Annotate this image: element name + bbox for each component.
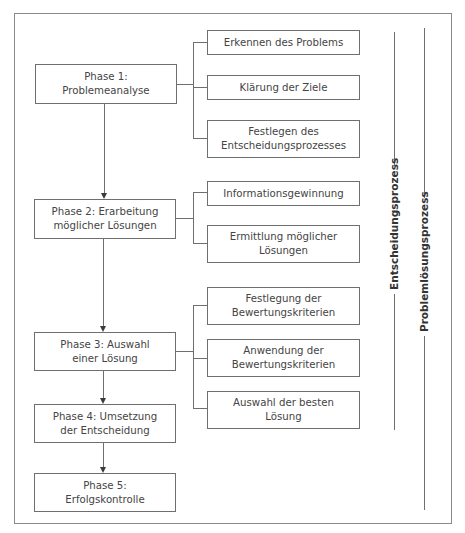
decision-process-line-bottom [394,294,395,430]
substep-box: Auswahl der bestenLösung [207,391,360,429]
phase-3-box: Phase 3: Auswahleiner Lösung [34,332,176,371]
substep-label: Ermittlung möglicher [230,230,337,244]
phase-3-line1: Phase 3: Auswahl [60,338,149,352]
bracket-phase-3-connector [176,351,193,352]
phase-4-line1: Phase 4: Umsetzung [53,410,158,424]
phase-2-line2: möglicher Lösungen [52,219,159,233]
substep-box: Festlegung derBewertungskriterien [207,287,360,325]
phase-5-box: Phase 5:Erfolgskontrolle [34,473,176,512]
problem-solving-process-line-bottom [424,336,425,510]
arrow-down-icon [100,398,106,404]
substep-label: Entscheidungsprozesses [221,139,346,153]
phase-2-line1: Phase 2: Erarbeitung [52,205,159,219]
arrow-1-2-line [104,104,105,193]
arrow-4-5-line [103,443,104,467]
substep-label: Lösungen [230,244,337,258]
bracket-phase-1-tick-3 [193,138,207,139]
arrow-3-4-line [103,371,104,398]
arrow-down-icon [100,467,106,473]
bracket-phase-2-connector [176,218,193,219]
substep-box: Klärung der Ziele [207,75,360,100]
problem-solving-process-line-top [424,28,425,198]
substep-label: Bewertungskriterien [232,306,336,320]
substep-label: Festlegung der [232,292,336,306]
phase-3-line2: einer Lösung [60,352,149,366]
phase-1-box: Phase 1:Problemeanalyse [35,64,177,104]
substep-label: Erkennen des Problems [224,36,344,50]
bracket-phase-3-tick-2 [193,358,207,359]
bracket-phase-2-tick-2 [193,243,207,244]
arrow-down-icon [101,193,107,199]
phase-4-line2: der Entscheidung [53,424,158,438]
bracket-phase-3-vertical [193,305,194,409]
bracket-phase-1-vertical [193,42,194,139]
substep-label: Bewertungskriterien [232,358,336,372]
substep-label: Festlegen des [221,125,346,139]
phase-1-line2: Problemeanalyse [62,84,149,98]
bracket-phase-1-connector [177,84,193,85]
bracket-phase-2-tick-1 [193,192,207,193]
substep-box: Erkennen des Problems [207,30,360,55]
substep-box: Informationsgewinnung [207,181,360,206]
decision-process-line-top [394,32,395,166]
arrow-2-3-line [103,239,104,326]
substep-label: Lösung [233,410,334,424]
phase-1-line1: Phase 1: [62,70,149,84]
decision-process-label: Entscheidungsprozess [388,158,400,290]
phase-4-box: Phase 4: Umsetzungder Entscheidung [34,404,176,443]
substep-box: Anwendung derBewertungskriterien [207,339,360,377]
phase-5-line2: Erfolgskontrolle [65,493,144,507]
problem-solving-process-label: Problemlösungsprozess [418,191,430,332]
substep-label: Informationsgewinnung [223,187,343,201]
arrow-down-icon [100,326,106,332]
bracket-phase-1-tick-2 [193,87,207,88]
bracket-phase-1-tick-1 [193,42,207,43]
substep-box: Ermittlung möglicherLösungen [207,225,360,263]
phase-5-line1: Phase 5: [65,479,144,493]
phase-2-box: Phase 2: Erarbeitungmöglicher Lösungen [34,199,176,239]
bracket-phase-2-vertical [193,192,194,244]
substep-label: Klärung der Ziele [240,81,328,95]
bracket-phase-3-tick-1 [193,305,207,306]
substep-label: Anwendung der [232,344,336,358]
substep-label: Auswahl der besten [233,396,334,410]
substep-box: Festlegen desEntscheidungsprozesses [207,120,360,158]
bracket-phase-3-tick-3 [193,408,207,409]
